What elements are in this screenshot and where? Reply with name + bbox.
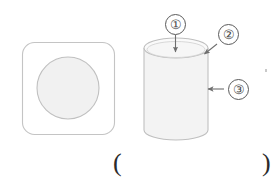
scan-speck-artifact bbox=[265, 69, 267, 72]
figure-page: ① ② ③ ( ) bbox=[0, 0, 276, 179]
cylinder-lateral-surface bbox=[144, 48, 208, 140]
callout-marker-3[interactable]: ③ bbox=[228, 79, 249, 100]
answer-blank-field[interactable] bbox=[124, 152, 260, 176]
callout-marker-1[interactable]: ① bbox=[165, 14, 186, 35]
inscribed-circle bbox=[37, 57, 99, 119]
rounded-square-shape bbox=[23, 43, 115, 135]
cylinder-shape bbox=[144, 38, 208, 140]
answer-close-paren: ) bbox=[262, 150, 271, 176]
answer-open-paren: ( bbox=[113, 150, 122, 176]
callout-marker-2[interactable]: ② bbox=[218, 24, 239, 45]
